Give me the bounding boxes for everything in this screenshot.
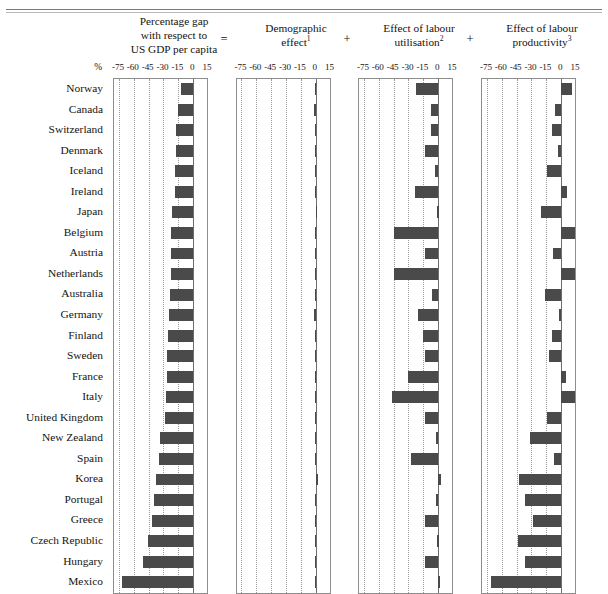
bar[interactable]	[547, 165, 561, 177]
bar[interactable]	[143, 556, 193, 568]
bar[interactable]	[423, 330, 438, 342]
bar[interactable]	[561, 268, 576, 280]
bar[interactable]	[559, 309, 561, 321]
bar[interactable]	[425, 412, 438, 424]
bar[interactable]	[148, 535, 194, 547]
bar[interactable]	[436, 432, 438, 444]
bar[interactable]	[394, 227, 439, 239]
bar[interactable]	[416, 83, 438, 95]
bar[interactable]	[167, 350, 193, 362]
bar[interactable]	[315, 268, 317, 280]
bar[interactable]	[437, 535, 439, 547]
bar[interactable]	[166, 391, 193, 403]
bar[interactable]	[438, 474, 441, 486]
bar[interactable]	[415, 186, 438, 198]
bar[interactable]	[176, 145, 193, 157]
bar[interactable]	[315, 391, 317, 403]
bar[interactable]	[156, 474, 194, 486]
bar[interactable]	[438, 576, 440, 588]
bar[interactable]	[172, 206, 193, 218]
bar[interactable]	[152, 515, 194, 527]
bar[interactable]	[171, 248, 193, 260]
bar[interactable]	[545, 289, 561, 301]
bar[interactable]	[315, 350, 317, 362]
bar[interactable]	[314, 104, 316, 116]
bar[interactable]	[315, 145, 317, 157]
bar[interactable]	[122, 576, 193, 588]
bar[interactable]	[561, 186, 567, 198]
bar[interactable]	[315, 248, 317, 260]
bar[interactable]	[436, 494, 438, 506]
bar[interactable]	[558, 145, 561, 157]
bar[interactable]	[425, 556, 438, 568]
bar[interactable]	[394, 268, 439, 280]
bar[interactable]	[171, 268, 193, 280]
bar[interactable]	[315, 83, 317, 95]
bar[interactable]	[315, 576, 317, 588]
bar[interactable]	[432, 289, 438, 301]
bar[interactable]	[315, 494, 317, 506]
bar[interactable]	[176, 124, 193, 136]
bar[interactable]	[315, 453, 317, 465]
bar[interactable]	[315, 515, 317, 527]
bar[interactable]	[316, 206, 318, 218]
bar[interactable]	[425, 248, 438, 260]
bar[interactable]	[315, 432, 317, 444]
bar[interactable]	[170, 289, 193, 301]
bar[interactable]	[315, 371, 317, 383]
bar[interactable]	[519, 474, 562, 486]
bar[interactable]	[408, 371, 438, 383]
bar[interactable]	[178, 104, 193, 116]
bar[interactable]	[425, 350, 438, 362]
bar[interactable]	[547, 412, 561, 424]
bar[interactable]	[561, 227, 576, 239]
bar[interactable]	[554, 453, 561, 465]
bar[interactable]	[552, 124, 561, 136]
bar[interactable]	[561, 371, 566, 383]
bar[interactable]	[315, 124, 317, 136]
bar[interactable]	[530, 432, 561, 444]
bar[interactable]	[165, 412, 193, 424]
bar[interactable]	[549, 350, 561, 362]
bar[interactable]	[525, 494, 562, 506]
bar[interactable]	[315, 556, 317, 568]
bar[interactable]	[541, 206, 561, 218]
bar[interactable]	[555, 104, 561, 116]
bar[interactable]	[561, 391, 576, 403]
bar[interactable]	[392, 391, 439, 403]
bar[interactable]	[175, 165, 193, 177]
bar[interactable]	[167, 371, 193, 383]
bar[interactable]	[160, 432, 194, 444]
bar[interactable]	[431, 104, 438, 116]
bar[interactable]	[315, 165, 317, 177]
bar[interactable]	[411, 453, 438, 465]
bar[interactable]	[168, 330, 193, 342]
bar[interactable]	[314, 309, 316, 321]
bar[interactable]	[435, 165, 438, 177]
bar[interactable]	[169, 309, 193, 321]
bar[interactable]	[315, 535, 317, 547]
bar[interactable]	[418, 309, 438, 321]
bar[interactable]	[533, 515, 561, 527]
bar[interactable]	[437, 206, 439, 218]
bar[interactable]	[425, 145, 438, 157]
bar[interactable]	[518, 535, 562, 547]
bar[interactable]	[175, 186, 193, 198]
bar[interactable]	[491, 576, 561, 588]
bar[interactable]	[431, 124, 438, 136]
bar[interactable]	[159, 453, 194, 465]
bar[interactable]	[181, 83, 193, 95]
bar[interactable]	[171, 227, 193, 239]
bar[interactable]	[315, 227, 317, 239]
bar[interactable]	[315, 186, 317, 198]
bar[interactable]	[553, 248, 561, 260]
bar[interactable]	[525, 556, 562, 568]
bar[interactable]	[561, 83, 572, 95]
bar[interactable]	[315, 289, 317, 301]
bar[interactable]	[425, 515, 438, 527]
bar[interactable]	[315, 330, 317, 342]
bar[interactable]	[552, 330, 561, 342]
bar[interactable]	[154, 494, 194, 506]
bar[interactable]	[316, 474, 318, 486]
bar[interactable]	[315, 412, 317, 424]
